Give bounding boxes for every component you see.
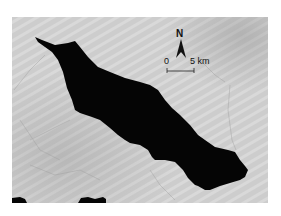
north-label: N [176,29,183,39]
satellite-map [12,17,268,203]
scale-start-label: 0 [164,57,169,66]
scale-end-label: 5 km [190,57,210,66]
satellite-image [12,17,268,203]
